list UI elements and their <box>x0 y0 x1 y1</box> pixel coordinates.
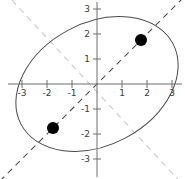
y-tick-label-pos2: 2 <box>84 29 90 39</box>
data-point <box>47 122 59 134</box>
x-tick-label-neg2: -2 <box>43 88 52 98</box>
y-tick-label-neg2: -2 <box>81 129 90 139</box>
y-tick-label-neg3: -3 <box>81 154 90 164</box>
ellipse-curve <box>0 0 185 178</box>
y-tick-label-pos1: 1 <box>84 54 90 64</box>
scatter-plot-figure: -3 -2 -1 1 2 3 3 2 1 -1 -2 -3 <box>0 0 185 179</box>
data-point <box>135 34 147 46</box>
x-tick-label-neg3: -3 <box>18 88 27 98</box>
plot-canvas: -3 -2 -1 1 2 3 3 2 1 -1 -2 -3 <box>0 0 185 179</box>
x-tick-label-pos1: 1 <box>119 88 125 98</box>
y-tick-label-neg1: -1 <box>81 104 90 114</box>
x-tick-label-pos3: 3 <box>169 88 175 98</box>
x-tick-label-neg1: -1 <box>68 88 77 98</box>
y-tick-label-pos3: 3 <box>84 4 90 14</box>
x-tick-label-pos2: 2 <box>144 88 150 98</box>
